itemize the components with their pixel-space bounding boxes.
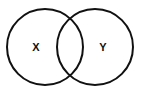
figure-background bbox=[0, 0, 142, 95]
venn-diagram-canvas: X Y bbox=[0, 0, 142, 95]
set-label-x: X bbox=[32, 41, 40, 53]
venn-diagram-figure: X Y bbox=[0, 0, 142, 95]
set-label-y: Y bbox=[99, 41, 107, 53]
